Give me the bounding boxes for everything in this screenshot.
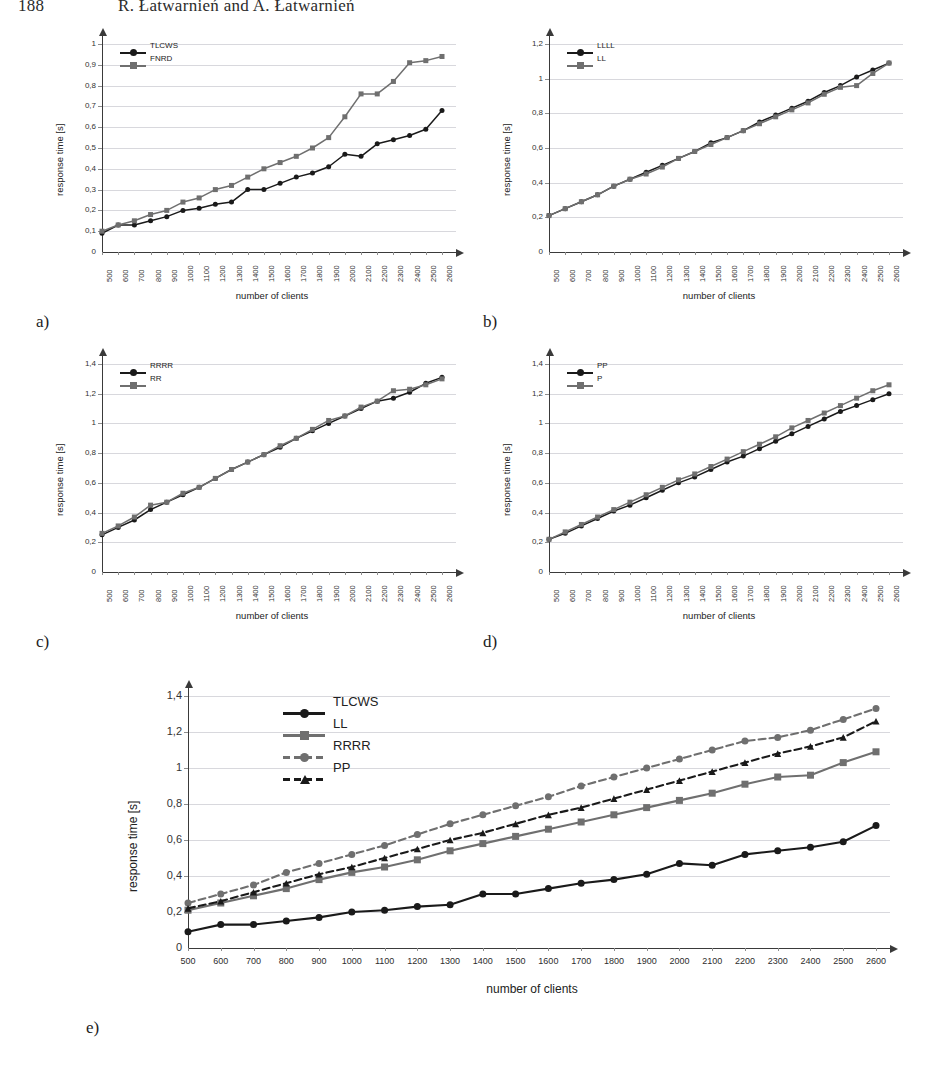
gridline [102, 453, 456, 454]
x-tick-mark [727, 572, 728, 575]
x-tick-label: 2000 [348, 265, 357, 282]
gridline [102, 127, 456, 128]
x-tick-label: 1600 [730, 585, 739, 602]
panel-label-e: e) [86, 1018, 99, 1038]
x-tick-mark [516, 948, 517, 951]
y-tick-label: 0,4 [515, 508, 543, 517]
gridline [188, 804, 890, 805]
x-tick-mark [873, 572, 874, 575]
gridline [102, 483, 456, 484]
y-axis-line [549, 36, 550, 252]
x-axis-line [102, 572, 456, 573]
x-tick-label: 1400 [251, 265, 260, 282]
x-tick-mark [442, 572, 443, 575]
gridline [188, 876, 890, 877]
gridline [549, 542, 903, 543]
x-tick-label: 1100 [367, 956, 403, 966]
gridline [102, 148, 456, 149]
x-tick-label: 1200 [665, 585, 674, 602]
x-tick-mark [565, 252, 566, 255]
x-tick-label: 2600 [858, 956, 894, 966]
x-tick-mark [857, 252, 858, 255]
y-tick-label: 0 [515, 567, 543, 576]
x-tick-label: 2100 [364, 585, 373, 602]
x-tick-mark [450, 948, 451, 951]
panel-label-c: c) [36, 632, 49, 652]
gridline [102, 169, 456, 170]
legend-label: FNRD [150, 54, 172, 63]
y-axis-arrow [546, 348, 554, 356]
x-tick-mark [352, 948, 353, 951]
x-tick-label: 600 [203, 956, 239, 966]
x-tick-label: 1900 [779, 265, 788, 282]
x-tick-label: 1900 [779, 585, 788, 602]
x-tick-label: 1800 [762, 585, 771, 602]
x-axis-arrow [890, 945, 898, 953]
legend-marker-circle [300, 709, 309, 718]
figure-panel-d: 00,20,40,60,811,21,450060070080090010001… [487, 350, 907, 650]
x-tick-mark [410, 572, 411, 575]
x-tick-label: 2300 [843, 585, 852, 602]
x-tick-mark [183, 572, 184, 575]
y-tick-label: 0,2 [68, 205, 96, 214]
x-tick-mark [296, 572, 297, 575]
x-tick-mark [598, 572, 599, 575]
gridline [102, 106, 456, 107]
y-tick-label: 1,2 [515, 389, 543, 398]
x-tick-mark [329, 572, 330, 575]
x-tick-label: 1300 [682, 585, 691, 602]
x-tick-label: 2300 [396, 265, 405, 282]
x-tick-label: 2200 [727, 956, 763, 966]
x-tick-mark [792, 572, 793, 575]
x-tick-mark [264, 252, 265, 255]
x-tick-label: 1600 [530, 956, 566, 966]
x-tick-mark [442, 252, 443, 255]
x-tick-mark [118, 252, 119, 255]
x-tick-mark [199, 572, 200, 575]
x-tick-mark [759, 252, 760, 255]
y-tick-label: 1,4 [148, 689, 182, 701]
y-tick-label: 0,2 [68, 537, 96, 546]
legend-label: PP [597, 361, 608, 370]
x-tick-mark [188, 948, 189, 951]
gridline [549, 79, 903, 80]
x-tick-mark [426, 252, 427, 255]
gridline [188, 912, 890, 913]
y-axis-title: response time [s] [501, 124, 512, 196]
x-tick-mark [810, 948, 811, 951]
gridline [549, 483, 903, 484]
x-tick-mark [102, 572, 103, 575]
x-tick-mark [549, 252, 550, 255]
x-tick-mark [118, 572, 119, 575]
x-tick-label: 2600 [445, 585, 454, 602]
x-tick-label: 1500 [714, 585, 723, 602]
x-tick-label: 900 [170, 589, 179, 602]
y-tick-label: 0,5 [68, 143, 96, 152]
y-tick-label: 0,2 [515, 537, 543, 546]
x-tick-label: 1100 [649, 586, 658, 602]
x-tick-mark [662, 252, 663, 255]
gridline [549, 394, 903, 395]
x-tick-mark [199, 252, 200, 255]
x-tick-mark [361, 572, 362, 575]
x-tick-mark [646, 572, 647, 575]
y-tick-label: 0,2 [515, 212, 543, 221]
x-tick-mark [824, 252, 825, 255]
x-axis-title: number of clients [188, 982, 876, 996]
x-tick-label: 2600 [892, 265, 901, 282]
x-tick-mark [385, 948, 386, 951]
x-tick-mark [345, 572, 346, 575]
x-tick-mark [646, 252, 647, 255]
y-axis-title: response time [s] [126, 801, 140, 892]
x-tick-label: 1900 [332, 585, 341, 602]
x-axis-title: number of clients [549, 610, 889, 621]
x-tick-mark [565, 572, 566, 575]
x-tick-label: 2000 [795, 265, 804, 282]
x-tick-label: 2400 [860, 265, 869, 282]
y-tick-label: 0,9 [68, 60, 96, 69]
x-tick-label: 1700 [299, 265, 308, 282]
x-tick-mark [840, 572, 841, 575]
x-tick-label: 900 [170, 269, 179, 282]
legend-marker-square [130, 62, 137, 69]
legend-marker-circle [130, 369, 137, 376]
